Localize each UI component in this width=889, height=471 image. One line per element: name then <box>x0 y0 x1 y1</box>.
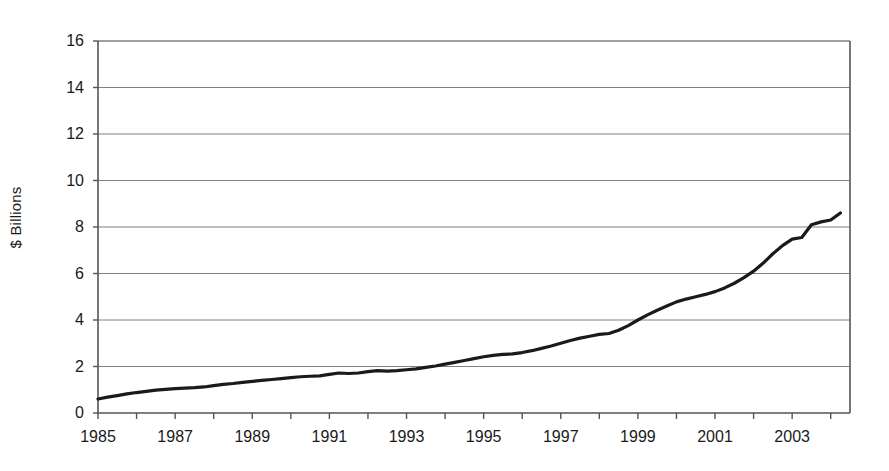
x-tick-label: 2001 <box>685 429 745 445</box>
line-chart-plot <box>0 0 889 471</box>
y-tick-label: 2 <box>44 359 84 375</box>
x-tick-label: 1989 <box>222 429 282 445</box>
y-tick-label: 16 <box>44 33 84 49</box>
y-tick-label: 8 <box>44 219 84 235</box>
x-tick-label: 1993 <box>377 429 437 445</box>
x-tick-label: 2003 <box>762 429 822 445</box>
y-tick-label: 4 <box>44 312 84 328</box>
x-tick-label: 1997 <box>531 429 591 445</box>
y-tick-label: 0 <box>44 405 84 421</box>
x-tick-label: 1987 <box>145 429 205 445</box>
x-axis-ticks <box>98 413 831 419</box>
x-tick-label: 1995 <box>454 429 514 445</box>
y-tick-label: 14 <box>44 80 84 96</box>
x-tick-label: 1999 <box>608 429 668 445</box>
chart-container: $ Billions 0246810121416 198519871989199… <box>0 0 889 471</box>
x-tick-label: 1991 <box>299 429 359 445</box>
y-tick-label: 10 <box>44 173 84 189</box>
gridlines <box>98 41 850 367</box>
x-tick-label: 1985 <box>68 429 128 445</box>
y-tick-label: 6 <box>44 266 84 282</box>
y-tick-label: 12 <box>44 126 84 142</box>
data-series-line <box>98 213 840 399</box>
